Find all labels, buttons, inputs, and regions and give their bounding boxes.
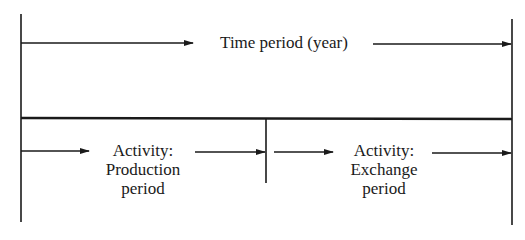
exchange-activity-line1: Activity: — [338, 141, 430, 160]
exchange-activity-line2: Exchange — [338, 160, 430, 179]
production-activity-label: Activity: Production period — [93, 141, 193, 198]
production-activity-line3: period — [93, 179, 193, 198]
exchange-activity-line3: period — [338, 179, 430, 198]
exchange-activity-label: Activity: Exchange period — [338, 141, 430, 198]
production-activity-line2: Production — [93, 160, 193, 179]
production-activity-line1: Activity: — [93, 141, 193, 160]
time-period-label: Time period (year) — [198, 33, 370, 52]
